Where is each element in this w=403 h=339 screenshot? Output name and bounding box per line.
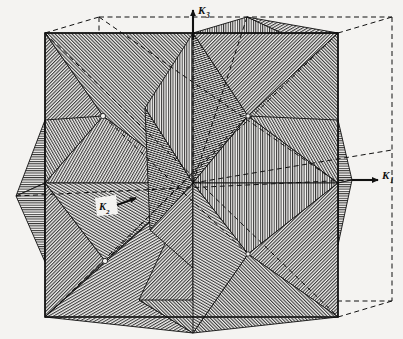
vertex-upper-left-node	[100, 113, 105, 118]
stellated-polyhedron-facets	[16, 17, 352, 333]
axis-k2-subscript: 2	[105, 208, 110, 216]
stellated-polyhedron-figure: K 3 K 1 K 2	[0, 0, 403, 339]
vertex-lower-left-node	[102, 258, 107, 263]
figure-canvas: K 3 K 1 K 2	[0, 0, 403, 339]
vertex-upper-right-node	[246, 114, 250, 118]
axis-k1-label: K	[381, 169, 390, 181]
axis-k3-label: K	[197, 4, 206, 16]
axis-k1-subscript: 1	[390, 176, 394, 185]
vertex-lower-right-node	[246, 252, 250, 256]
axis-k3-subscript: 3	[205, 11, 210, 20]
